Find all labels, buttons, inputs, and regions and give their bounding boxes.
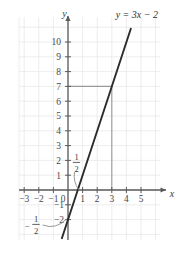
y-tick-label: 1 [56,171,61,181]
figure-background [0,0,182,254]
negative-half-fraction-sign: − [25,221,30,231]
graph-figure: −3 −2 −1 0 1 2 3 4 5 10 9 8 7 6 5 4 3 2 … [0,0,182,254]
half-fraction-numerator: 1 [74,152,78,162]
y-tick-label: 9 [56,52,61,62]
y-tick-label: 4 [56,126,61,136]
y-tick-label: 6 [56,97,61,107]
y-tick-label: 5 [56,111,61,121]
x-tick-label: −3 [19,194,29,204]
y-tick-label: 2 [56,156,61,166]
x-tick-label: 2 [95,194,100,204]
y-tick-label: −2 [54,215,64,225]
x-tick-label: 3 [109,194,114,204]
y-tick-label: 7 [56,82,61,92]
equation-label: y = 3x − 2 [115,9,158,20]
coordinate-plane: −3 −2 −1 0 1 2 3 4 5 10 9 8 7 6 5 4 3 2 … [0,0,182,254]
x-tick-label: −2 [34,194,44,204]
x-axis-label: x [169,188,175,199]
y-tick-label: 3 [56,141,61,151]
x-axis-tick-labels: −3 −2 −1 0 1 2 3 4 5 [19,194,143,204]
y-tick-label: 10 [52,37,62,47]
y-tick-label: −1 [54,200,64,210]
half-fraction-denominator: 2 [74,164,78,174]
x-tick-label: 5 [139,194,144,204]
x-tick-label: 1 [80,194,85,204]
y-axis-label: y [61,8,67,19]
y-tick-label: 8 [56,67,61,77]
negative-half-fraction-denominator: 2 [34,226,38,236]
x-tick-label: 4 [124,194,129,204]
negative-half-fraction-numerator: 1 [34,214,38,224]
